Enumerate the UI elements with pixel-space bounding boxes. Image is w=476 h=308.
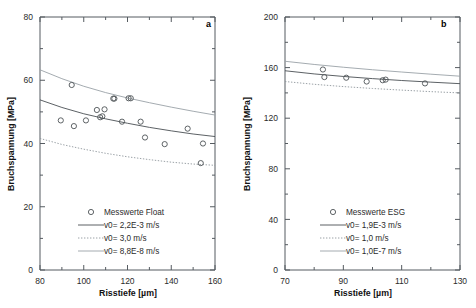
panel-b-y-tick-labels: 04080120160200 xyxy=(264,12,278,275)
legend-label: v0= 1,0 m/s xyxy=(346,234,389,243)
legend-label: v0= 8,8E-8 m/s xyxy=(104,247,159,256)
data-point xyxy=(58,118,63,123)
x-tick-label: 120 xyxy=(120,276,134,286)
data-point xyxy=(102,107,107,112)
data-point xyxy=(364,79,369,84)
panel-b-curves xyxy=(285,61,460,93)
data-point xyxy=(83,118,88,123)
panel-b-letter: b xyxy=(441,19,447,29)
y-tick-label: 40 xyxy=(24,139,34,149)
x-tick-label: 110 xyxy=(395,276,409,286)
x-tick-label: 140 xyxy=(164,276,178,286)
panel-a-letter: a xyxy=(206,19,212,29)
panel-a-svg: 020406080 80100120140160 Messwerte Float… xyxy=(0,0,238,308)
y-tick-label: 160 xyxy=(264,63,278,73)
data-point xyxy=(71,124,76,129)
panel-a-ticks xyxy=(40,17,215,270)
panel-b-ticks xyxy=(285,17,460,270)
panel-b-axis-frame xyxy=(285,17,460,270)
legend-label: Messwerte ESG xyxy=(346,208,405,217)
legend-marker-circle xyxy=(88,209,93,214)
data-point xyxy=(94,107,99,112)
legend-label: v0= 3,0 m/s xyxy=(104,234,147,243)
panel-b-svg: 04080120160200 7090110130 Messwerte ESGv… xyxy=(238,0,476,308)
legend-label: v0= 1,9E-3 m/s xyxy=(346,221,401,230)
data-point xyxy=(142,135,147,140)
x-tick-label: 100 xyxy=(77,276,91,286)
panel-a-axis-frame xyxy=(40,17,215,270)
data-point xyxy=(322,74,327,79)
y-tick-label: 0 xyxy=(28,265,33,275)
chart-panel-a: 020406080 80100120140160 Messwerte Float… xyxy=(0,0,238,308)
y-tick-label: 0 xyxy=(273,265,278,275)
panel-b-legend: Messwerte ESGv0= 1,9E-3 m/sv0= 1,0 m/sv0… xyxy=(320,208,405,256)
panel-a-y-tick-labels: 020406080 xyxy=(24,12,34,275)
y-tick-label: 20 xyxy=(24,202,34,212)
y-tick-label: 40 xyxy=(269,215,279,225)
y-tick-label: 80 xyxy=(269,164,279,174)
panel-a-curves xyxy=(40,70,215,166)
y-tick-label: 200 xyxy=(264,12,278,22)
panel-b-x-tick-labels: 7090110130 xyxy=(280,276,467,286)
legend-label: v0= 1,0E-7 m/s xyxy=(346,247,401,256)
curve-dotted xyxy=(285,82,460,93)
data-point xyxy=(344,75,349,80)
data-point xyxy=(138,119,143,124)
legend-label: v0= 2,2E-3 m/s xyxy=(104,221,159,230)
data-point xyxy=(162,142,167,147)
data-point xyxy=(320,67,325,72)
y-tick-label: 80 xyxy=(24,12,34,22)
panel-a-x-tick-labels: 80100120140160 xyxy=(35,276,222,286)
curve-dotted xyxy=(40,138,215,165)
x-tick-label: 70 xyxy=(280,276,290,286)
chart-panel-b: 04080120160200 7090110130 Messwerte ESGv… xyxy=(238,0,476,308)
x-tick-label: 160 xyxy=(208,276,222,286)
y-tick-label: 60 xyxy=(24,75,34,85)
data-point xyxy=(185,126,190,131)
x-tick-label: 80 xyxy=(35,276,45,286)
panel-a-y-axis-title: Bruchspannung [MPa] xyxy=(6,97,16,191)
curve-solid xyxy=(285,71,460,84)
panel-a-x-axis-title: Risstiefe [µm] xyxy=(99,288,157,298)
legend-label: Messwerte Float xyxy=(104,208,165,217)
x-tick-label: 90 xyxy=(339,276,349,286)
panel-b-y-axis-title: Bruchspannung [MPa] xyxy=(242,97,252,191)
y-tick-label: 120 xyxy=(264,113,278,123)
panel-b-x-axis-title: Risstiefe [µm] xyxy=(334,288,392,298)
panel-a-legend: Messwerte Floatv0= 2,2E-3 m/sv0= 3,0 m/s… xyxy=(78,208,165,256)
data-point xyxy=(200,141,205,146)
legend-marker-circle xyxy=(330,209,335,214)
data-point xyxy=(69,82,74,87)
x-tick-label: 130 xyxy=(453,276,467,286)
